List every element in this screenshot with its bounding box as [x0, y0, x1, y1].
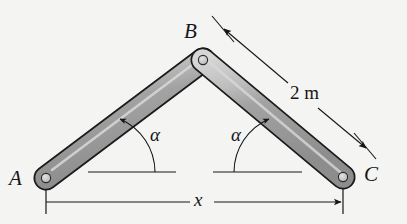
- joint-a-pin: [41, 173, 50, 182]
- joint-c-pin: [338, 172, 347, 181]
- label-span-x: x: [194, 190, 202, 209]
- label-alpha-right: α: [231, 125, 241, 144]
- joint-b-pin: [198, 55, 207, 64]
- joint-a: [41, 173, 50, 182]
- label-alpha-left: α: [150, 125, 160, 144]
- linkage-figure: A B C α α 2 m x: [0, 0, 407, 224]
- linkage-diagram-svg: [0, 0, 407, 224]
- label-point-b: B: [184, 21, 197, 42]
- label-point-c: C: [364, 164, 378, 185]
- joint-b: [198, 55, 207, 64]
- label-link-length: 2 m: [290, 83, 319, 102]
- figure-background: [0, 0, 407, 224]
- joint-c: [338, 172, 347, 181]
- label-point-a: A: [9, 168, 22, 189]
